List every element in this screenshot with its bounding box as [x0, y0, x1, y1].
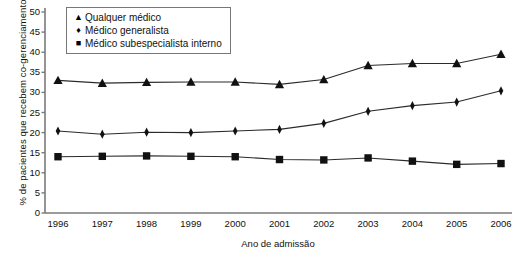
legend-label: Médico subespecialista interno [85, 38, 222, 50]
square-marker-icon: ■ [72, 39, 85, 48]
square-marker-icon [187, 153, 194, 160]
diamond-marker-icon: ♦ [72, 26, 85, 35]
legend-label: Médico generalista [85, 25, 169, 37]
series-2 [56, 86, 504, 139]
square-marker-icon [99, 153, 106, 160]
legend-label: Qualquer médico [85, 12, 161, 24]
chart-legend: ▲ Qualquer médico ♦ Médico generalista ■… [66, 7, 231, 54]
square-marker-icon [409, 157, 416, 164]
square-marker-icon [364, 154, 371, 161]
diamond-marker-icon [277, 125, 282, 134]
diamond-marker-icon [56, 126, 61, 135]
diamond-marker-icon [189, 128, 194, 137]
legend-item-medico-subespecialista-interno: ■ Médico subespecialista interno [72, 37, 222, 50]
series-1 [53, 50, 505, 89]
diamond-marker-icon [454, 97, 459, 106]
triangle-marker-icon: ▲ [72, 13, 85, 22]
square-marker-icon [453, 161, 460, 168]
square-marker-icon [54, 153, 61, 160]
series-3 [54, 152, 504, 168]
square-marker-icon [320, 156, 327, 163]
triangle-marker-icon [53, 76, 62, 84]
square-marker-icon [276, 156, 283, 163]
legend-item-medico-generalista: ♦ Médico generalista [72, 24, 222, 37]
diamond-marker-icon [233, 126, 238, 135]
square-marker-icon [143, 152, 150, 159]
triangle-marker-icon [496, 50, 505, 58]
diamond-marker-icon [322, 119, 327, 128]
legend-item-qualquer-medico: ▲ Qualquer médico [72, 11, 222, 24]
diamond-marker-icon [144, 128, 149, 137]
square-marker-icon [232, 153, 239, 160]
chart-container: % de pacientes que recebem co-gerenciame… [0, 0, 516, 259]
diamond-marker-icon [410, 101, 415, 110]
triangle-marker-icon [319, 75, 328, 83]
square-marker-icon [497, 160, 504, 167]
diamond-marker-icon [366, 107, 371, 116]
diamond-marker-icon [100, 130, 105, 139]
diamond-marker-icon [499, 86, 504, 95]
